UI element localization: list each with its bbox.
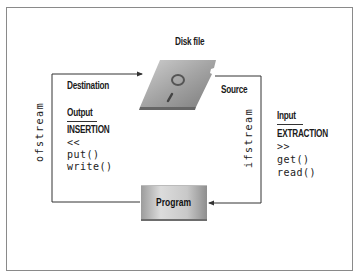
disk-file-icon	[139, 60, 216, 110]
input-underline	[277, 124, 303, 125]
insertion-operator: <<	[67, 137, 80, 149]
read-method: read()	[277, 167, 316, 179]
ifstream-label: ifstream	[243, 108, 254, 168]
arrowhead-to-program	[208, 201, 214, 206]
extraction-label: EXTRACTION	[277, 128, 328, 139]
program-box: Program	[141, 185, 207, 219]
put-method: put()	[67, 149, 100, 161]
program-label: Program	[157, 197, 192, 208]
source-label: Source	[221, 84, 247, 95]
get-method: get()	[277, 154, 310, 166]
destination-label: Destination	[67, 80, 109, 91]
arrowhead-to-disk	[137, 72, 143, 77]
ofstream-label: ofstream	[34, 102, 45, 162]
disk-file-label: Disk file	[175, 36, 204, 47]
input-heading: Input	[277, 110, 296, 121]
extraction-operator: >>	[277, 141, 290, 153]
output-heading: Output	[67, 107, 92, 118]
write-method: write()	[67, 161, 113, 173]
insertion-label: INSERTION	[67, 124, 109, 135]
output-underline	[67, 121, 97, 122]
output-flow-line	[52, 74, 142, 202]
